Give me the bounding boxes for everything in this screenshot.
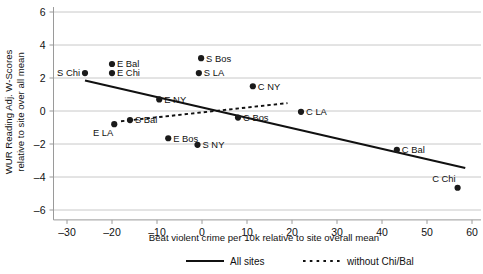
- data-point-e-ny: [156, 96, 162, 102]
- y-tick-label-2: 2: [40, 72, 46, 84]
- x-tick-label--20: –20: [103, 226, 121, 238]
- chart-svg: –30–20–100102030405060 –6–4–20246 S ChiE…: [0, 0, 483, 274]
- legend-label-without-chi-bal: without Chi/Bal: [346, 256, 414, 267]
- data-point-c-ny: [250, 83, 256, 89]
- y-tick-label-0: 0: [40, 105, 46, 117]
- data-point-e-bal: [109, 61, 115, 67]
- data-point-c-bal: [394, 147, 400, 153]
- data-point-s-chi: [82, 70, 88, 76]
- data-point-labels-group: S ChiE BalE ChiE LAS BalE NYE BosS BosS …: [57, 53, 456, 184]
- data-point-label-c-ny: C NY: [258, 81, 281, 92]
- x-tick-label-50: 50: [421, 226, 433, 238]
- data-point-label-s-la: S LA: [204, 67, 225, 78]
- legend: All sites without Chi/Bal: [186, 256, 414, 267]
- data-point-label-c-chi: C Chi: [432, 173, 455, 184]
- x-tick-label--30: –30: [58, 226, 76, 238]
- data-point-s-bos: [198, 55, 204, 61]
- data-point-s-la: [196, 70, 202, 76]
- y-tick-label--6: –6: [34, 204, 46, 216]
- data-point-label-e-la: E LA: [93, 127, 114, 138]
- data-point-c-bos: [235, 115, 241, 121]
- data-point-label-s-chi: S Chi: [57, 67, 80, 78]
- y-tick-labels-group: –6–4–20246: [34, 6, 46, 216]
- data-point-label-e-bos: E Bos: [173, 133, 198, 144]
- scatter-chart-figure: –30–20–100102030405060 –6–4–20246 S ChiE…: [0, 0, 483, 274]
- y-axis-title-line2: relative to site over all mean: [15, 52, 26, 171]
- data-point-c-chi: [455, 185, 461, 191]
- data-point-label-c-bal: C Bal: [402, 144, 425, 155]
- y-tick-label--4: –4: [34, 171, 46, 183]
- data-point-e-chi: [109, 70, 115, 76]
- x-axis-title: Beat violent crime per 10k relative to s…: [149, 232, 379, 243]
- data-point-label-e-chi: E Chi: [117, 67, 140, 78]
- data-point-e-bos: [165, 135, 171, 141]
- y-tick-label-4: 4: [40, 39, 46, 51]
- y-tick-label-6: 6: [40, 6, 46, 18]
- data-point-s-bal: [127, 117, 133, 123]
- gridlines-group: [54, 12, 482, 210]
- data-point-label-c-la: C LA: [306, 106, 328, 117]
- data-point-label-e-ny: E NY: [164, 94, 187, 105]
- data-point-label-c-bos: C Bos: [243, 112, 269, 123]
- data-point-label-s-bos: S Bos: [206, 53, 231, 64]
- legend-label-all-sites: All sites: [230, 256, 264, 267]
- y-tick-label--2: –2: [34, 138, 46, 150]
- y-axis-title-line1: WUR Reading Adj. W-Scores: [3, 50, 14, 175]
- data-point-c-la: [298, 109, 304, 115]
- data-point-label-s-bal: S Bal: [135, 114, 157, 125]
- x-tick-label-60: 60: [466, 226, 478, 238]
- data-point-label-s-ny: S NY: [203, 139, 226, 150]
